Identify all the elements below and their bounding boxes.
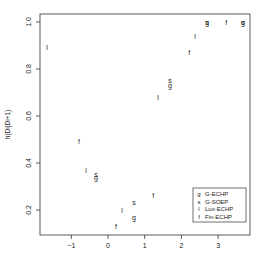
legend-label: Fin-ECHP	[205, 214, 232, 220]
y-axis-label: h(Di|Di+1)	[4, 110, 12, 139]
y-tick-label: 0.2	[25, 205, 32, 215]
y-tick-label: 1.0	[25, 17, 32, 27]
y-tick-label: 0.4	[25, 158, 32, 168]
legend-symbol: s	[198, 199, 201, 205]
data-point-s: s	[205, 19, 209, 26]
x-tick-label: 2	[179, 242, 183, 249]
legend-symbol: l	[198, 206, 199, 212]
data-point-l: l	[157, 94, 159, 101]
legend-label: G-ECHP	[205, 191, 228, 197]
x-tick-label: 0	[106, 242, 110, 249]
data-point-f: f	[188, 49, 190, 56]
data-point-s: s	[132, 199, 136, 206]
y-axis: 0.20.40.60.81.0	[25, 17, 40, 215]
legend-label: G-SOEP	[205, 199, 228, 205]
data-point-f: f	[78, 138, 80, 145]
data-point-l: l	[85, 167, 87, 174]
legend-label: Lux-ECHP	[205, 206, 233, 212]
data-point-l: l	[121, 207, 123, 214]
legend: gG-ECHPsG-SOEPlLux-ECHPfFin-ECHP	[193, 188, 246, 222]
scatter-chart: −10123 0.20.40.60.81.0 h(Di|Di+1) gggggs…	[0, 0, 255, 254]
x-tick-label: 3	[216, 242, 220, 249]
data-point-f: f	[152, 192, 154, 199]
x-tick-label: −1	[67, 242, 75, 249]
x-tick-label: 1	[143, 242, 147, 249]
data-point-s: s	[168, 77, 172, 84]
x-axis: −10123	[67, 235, 220, 249]
legend-symbol: g	[197, 191, 200, 197]
y-tick-label: 0.6	[25, 111, 32, 121]
data-point-g: g	[132, 214, 136, 222]
data-point-l: l	[194, 33, 196, 40]
data-point-s: s	[94, 171, 98, 178]
data-point-f: f	[225, 19, 227, 26]
data-point-s: s	[241, 19, 245, 26]
data-point-l: l	[46, 44, 48, 51]
data-point-f: f	[115, 223, 117, 230]
y-tick-label: 0.8	[25, 64, 32, 74]
